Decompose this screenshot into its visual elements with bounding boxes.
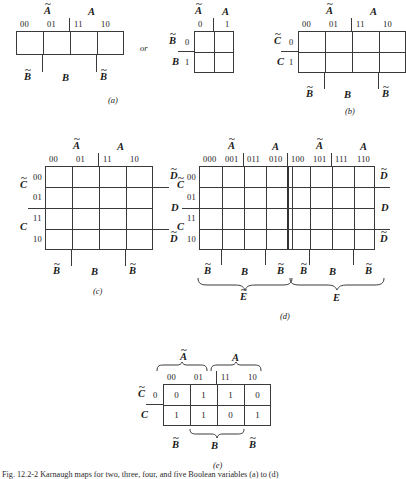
panel-e-cell-r0c3: 0 [244,391,271,400]
panel-a-or-connector: or [140,44,148,53]
panel-d-group-split [331,153,332,166]
panel-a-map1-col-10: 10 [101,20,110,29]
panel-c-col-10: 10 [130,155,139,164]
panel-c-grid [45,166,153,250]
panel-d-right-dbar-top: D [380,171,388,182]
panel-b-bottom-bbar-right: B [382,89,389,100]
panel-c-tick [125,250,126,266]
panel-a-map1-tick [42,55,43,72]
panel-d-brace-label-e: E [333,293,340,304]
panel-d-bottom-bbar-2: B [277,266,284,277]
panel-c-row-10: 10 [33,235,42,244]
grid-divider [97,32,98,54]
panel-a-map2-group-a: A [222,7,229,18]
panel-d-row-split-tick [182,208,200,209]
panel-d-bottom-b-1: B [241,267,248,278]
panel-c-row-00: 00 [33,173,42,182]
panel-d-group-a-2: A [360,142,367,153]
panel-e-brace-abar [155,362,209,372]
panel-c-row-11: 11 [33,214,42,223]
panel-e-group-split [216,371,217,384]
panel-c-row-cbar: C [20,180,27,191]
panel-a-map1-bottom-bbar-right: B [100,72,107,83]
panel-b-row-c: C [277,57,284,68]
panel-a-map1-group-a: A [88,7,95,18]
panel-e-bottom-bbar-left: B [172,440,179,451]
panel-d-col-011: 011 [247,155,260,164]
panel-d-tick [309,250,310,265]
panel-d-row-11: 11 [187,214,196,223]
panel-d-col-000: 000 [203,155,216,164]
panel-b-row-0: 0 [289,38,293,47]
panel-d-tick [265,250,266,265]
panel-e-col-10: 10 [248,373,257,382]
panel-a-map2-grid [194,31,234,73]
grid-divider [195,52,233,53]
panel-d-tick [353,250,354,265]
grid-divider [299,52,405,53]
panel-b-bottom-b: B [344,90,351,101]
panel-a-map1-bottom-b: B [62,73,69,84]
panel-b-group-a: A [370,7,377,18]
panel-c-col-11: 11 [103,155,112,164]
panel-c-tick [71,250,72,266]
panel-d-right-dbar-bottom: D [380,234,388,245]
panel-b-col-00: 00 [302,20,311,29]
panel-e-cell-r0c2: 1 [217,391,244,400]
panel-d-group-split [287,153,288,166]
figure-caption: Fig. 12.2-2 Karnaugh maps for two, three… [2,470,278,479]
panel-c-group-a: A [117,142,124,153]
grid-divider [46,229,152,230]
panel-c-col-00: 00 [49,155,58,164]
panel-c-col-01: 01 [76,155,85,164]
panel-d-bottom-b-2: B [329,267,336,278]
panel-c-right-dbar-bottom: D [170,234,178,245]
panel-a-map2-row-b: B [172,57,179,68]
panel-e-row-c: C [141,410,148,421]
panel-e-cell-r1c3: 1 [244,411,271,420]
panel-d-row-c: C [177,222,184,233]
panel-c-group-split [98,153,99,166]
panel-e-cell-r1c1: 1 [190,411,217,420]
panel-c-right-d: D [171,203,179,214]
panel-e-col-00: 00 [167,373,176,382]
panel-e-bottom-bbar-right: B [249,440,256,451]
grid-divider [200,187,374,188]
panel-c-bottom-b: B [91,267,98,278]
panel-c-bottom-bbar-left: B [53,266,60,277]
grid-divider [46,208,152,209]
panel-a-map1-group-split [69,18,70,31]
panel-a-map1-grid [16,31,124,55]
panel-c-row-01: 01 [33,193,42,202]
grid-divider [200,229,374,230]
panel-b-group-abar: A [326,6,333,17]
panel-b-col-11: 11 [356,20,365,29]
panel-e-col-01: 01 [194,373,203,382]
panel-d-group-abar-2: A [316,141,323,152]
panel-c-right-tick [153,187,169,188]
panel-d-grid [199,166,375,250]
panel-e-row-split-tick [146,404,164,405]
panel-e-row-cbar: C [138,389,145,400]
panel-a-map1-group-abar: A [44,6,51,17]
panel-d-col-111: 111 [335,155,348,164]
panel-a-map1-col-01: 01 [47,20,56,29]
panel-a-map2-col-0: 0 [198,20,202,29]
panel-d-group-a-1: A [272,142,279,153]
panel-b-row-split-tick [281,51,299,52]
panel-d-bottom-bbar-1: B [204,266,211,277]
panel-d-row-01: 01 [187,193,196,202]
panel-c-group-abar: A [73,141,80,152]
panel-e-cell-r1c2: 0 [217,411,244,420]
grid-divider [164,405,270,406]
panel-e-brace-a [209,362,263,372]
panel-a-map2-row-split-tick [178,51,195,52]
panel-d-group-split [243,153,244,166]
panel-d-col-001: 001 [225,155,238,164]
panel-e-cell-r0c0: 0 [163,391,190,400]
panel-d-col-101: 101 [313,155,326,164]
panel-d-row-10: 10 [187,235,196,244]
grid-divider [46,187,152,188]
panel-c-right-tick [153,229,169,230]
